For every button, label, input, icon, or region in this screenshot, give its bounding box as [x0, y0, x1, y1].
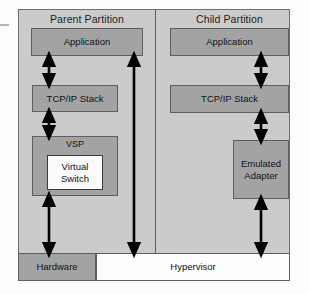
vsp-label: VSP — [33, 139, 117, 150]
partition-divider — [155, 9, 156, 253]
virtual-switch-box: Virtual Switch — [47, 155, 103, 190]
virtual-switch-label: Virtual Switch — [61, 161, 89, 185]
virtual-switch-label-line2: Switch — [61, 173, 89, 184]
child-tcpip-stack-box: TCP/IP Stack — [170, 85, 289, 113]
virtual-switch-label-line1: Virtual — [62, 161, 89, 172]
parent-partition-title: Parent Partition — [31, 13, 143, 25]
child-partition-title: Child Partition — [170, 13, 289, 25]
emulated-adapter-box: Emulated Adapter — [233, 140, 289, 199]
parent-application-box: Application — [31, 28, 143, 56]
hypervisor-box: Hypervisor — [96, 253, 290, 281]
emulated-adapter-label-line2: Adapter — [244, 170, 277, 181]
parent-tcpip-stack-box: TCP/IP Stack — [32, 85, 118, 112]
emulated-adapter-label-line1: Emulated — [241, 158, 281, 169]
hardware-box: Hardware — [18, 253, 96, 281]
emulated-adapter-label: Emulated Adapter — [241, 158, 281, 182]
diagram-canvas: Parent Partition Child Partition Applica… — [0, 0, 309, 294]
child-application-box: Application — [170, 28, 289, 56]
scan-artifact — [0, 24, 9, 26]
